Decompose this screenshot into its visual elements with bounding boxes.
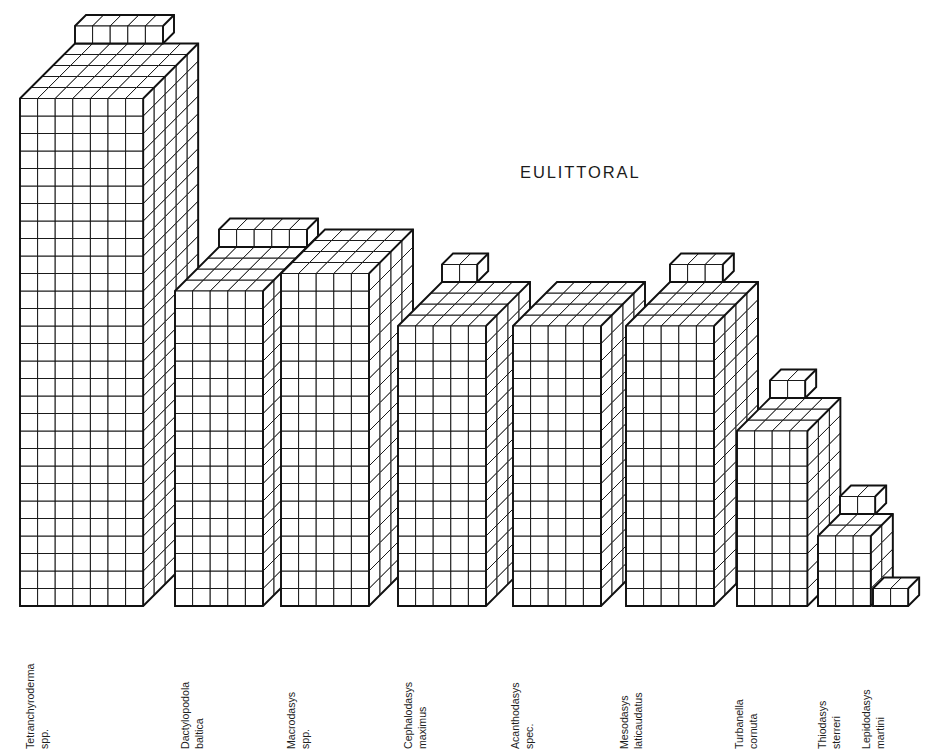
bar-8-cap-front	[840, 497, 875, 515]
bar-8-front	[818, 536, 871, 606]
bar-9-front	[873, 589, 908, 607]
bar-2-front	[175, 291, 263, 606]
chart-title-text: EULITTORAL	[520, 163, 640, 181]
bar-1	[20, 15, 198, 606]
bar-4	[398, 254, 530, 607]
bar-7-cap-front	[770, 381, 805, 399]
bar-6-front	[626, 326, 714, 606]
bar-6-cap-front	[670, 265, 723, 283]
bar-3-front	[281, 274, 369, 607]
chart-canvas	[0, 0, 930, 751]
bar-2-cap-top	[219, 219, 318, 230]
isometric-bar-chart-figure: EULITTORAL Tetranchyrodermaspp.Dactylopo…	[0, 0, 930, 751]
bar-3	[281, 230, 413, 607]
bar-7-front	[737, 431, 807, 606]
chart-title: EULITTORAL	[520, 163, 640, 182]
bar-1-cap-front	[75, 26, 163, 44]
bar-1-front	[20, 99, 143, 607]
bar-5-front	[513, 326, 601, 606]
bar-1-cap-top	[75, 15, 174, 26]
bar-9	[873, 578, 919, 607]
bar-2-cap-front	[219, 230, 307, 248]
bar-4-cap-front	[442, 265, 477, 283]
bar-4-front	[398, 326, 486, 606]
